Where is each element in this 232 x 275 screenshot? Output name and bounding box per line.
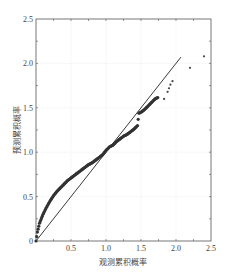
y-tick-label: 1.0 <box>23 148 33 157</box>
y-tick-label: 0 <box>29 237 33 246</box>
data-point <box>36 231 39 234</box>
data-points <box>34 55 205 242</box>
x-tick-label: 0.5 <box>66 244 76 253</box>
data-point <box>37 225 40 228</box>
y-tick-label: 1.5 <box>23 104 33 113</box>
data-point <box>137 118 140 121</box>
y-tick-label: 0.5 <box>23 193 33 202</box>
data-point-tail <box>168 87 170 89</box>
data-point-tail <box>163 98 165 100</box>
x-axis-title: 观测累积概率 <box>99 257 147 267</box>
data-point-tail <box>167 91 169 93</box>
y-axis-title: 预测累积概率 <box>12 106 22 154</box>
data-point <box>136 124 139 127</box>
data-point-tail <box>171 80 173 82</box>
data-point-tail <box>203 55 205 57</box>
x-tick-label: 1.5 <box>136 244 146 253</box>
x-tick-label: 2.0 <box>171 244 181 253</box>
data-point <box>37 228 40 231</box>
data-point <box>35 235 38 238</box>
data-point-tail <box>169 84 171 86</box>
data-point <box>156 96 159 99</box>
qq-plot: 0.51.01.52.02.5 00.51.01.52.02.5 观测累积概率 … <box>0 0 232 275</box>
y-tick-label: 2.5 <box>23 15 33 24</box>
data-point-tail <box>189 67 191 69</box>
x-tick-label: 2.5 <box>206 244 216 253</box>
x-tick-label: 1.0 <box>101 244 111 253</box>
y-tick-label: 2.0 <box>23 59 33 68</box>
x-axis-tick-labels: 0.51.01.52.02.5 <box>66 244 216 253</box>
y-axis-tick-labels: 00.51.01.52.02.5 <box>23 15 33 246</box>
data-point <box>34 239 37 242</box>
